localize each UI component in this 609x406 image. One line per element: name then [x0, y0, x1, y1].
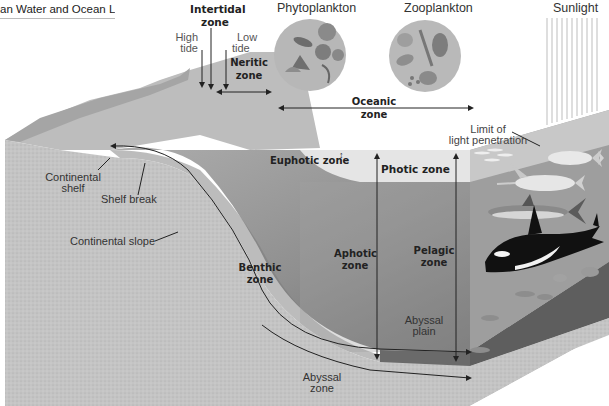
benthic-zone-label: Benthic zone	[238, 262, 282, 285]
ocean-zones-diagram: an Water and Ocean Life Intertidal zone …	[0, 0, 609, 406]
abyssal-plain-label: Abyssal plain	[402, 315, 446, 337]
abyssal-zone-line2: zone	[300, 383, 344, 394]
high-tide-label: High tide	[168, 32, 198, 54]
benthic-line1: Benthic	[238, 262, 282, 273]
aphotic-zone-label: Aphotic zone	[334, 248, 376, 271]
neritic-line1: Neritic	[226, 57, 272, 68]
oceanic-line1: Oceanic	[348, 96, 400, 107]
land-surface	[5, 52, 320, 150]
continental-shelf-label: Continental shelf	[42, 172, 104, 194]
photic-zone-label: Photic zone	[381, 164, 450, 175]
phytoplankton-inset	[274, 19, 346, 91]
page-title: an Water and Ocean Life	[0, 3, 115, 19]
sunlight-label: Sunlight	[553, 3, 598, 14]
pelagic-line2: zone	[412, 257, 456, 268]
continental-shelf-line2: shelf	[42, 183, 104, 194]
oceanic-zone-label: Oceanic zone	[348, 96, 400, 120]
zooplankton-inset	[389, 20, 461, 92]
continental-slope-label: Continental slope	[70, 236, 155, 247]
intertidal-zone-label: Intertidal zone	[190, 4, 240, 28]
low-tide-label: Low tide	[232, 32, 257, 54]
phytoplankton-label: Phytoplankton	[277, 3, 356, 14]
neritic-line2: zone	[226, 70, 272, 81]
intertidal-line2: zone	[190, 17, 240, 28]
neritic-zone-label: Neritic zone	[226, 57, 272, 81]
pelagic-zone-label: Pelagic zone	[412, 245, 456, 268]
limit-line2: light penetration	[440, 135, 536, 146]
abyssal-zone-label: Abyssal zone	[300, 372, 344, 394]
zooplankton-label: Zooplankton	[404, 3, 473, 14]
sunlight-rays	[547, 18, 597, 125]
limit-of-light-label: Limit of light penetration	[440, 124, 536, 146]
oceanic-line2: zone	[348, 109, 400, 120]
ocean-block-illustration	[0, 0, 609, 406]
euphotic-range-arrow: ↕	[339, 153, 344, 158]
benthic-line2: zone	[238, 274, 282, 285]
pelagic-line1: Pelagic	[412, 245, 456, 256]
high-tide-line2: tide	[168, 43, 198, 54]
aphotic-line2: zone	[334, 260, 376, 271]
aphotic-line1: Aphotic	[334, 248, 376, 259]
abyssal-plain-line2: plain	[402, 326, 446, 337]
euphotic-zone-label: Euphotic zone	[270, 155, 349, 166]
shelf-break-label: Shelf break	[101, 194, 157, 205]
intertidal-line1: Intertidal	[190, 4, 240, 15]
low-tide-line2: tide	[232, 43, 257, 54]
